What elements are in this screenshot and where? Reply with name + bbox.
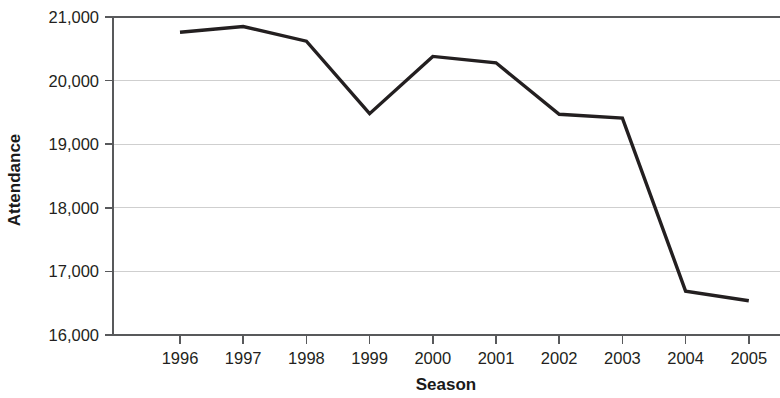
x-tick-label: 1997 [225,349,262,367]
y-tick-label: 20,000 [49,72,99,90]
x-tick-label: 2001 [478,349,515,367]
x-tick-label: 1996 [162,349,199,367]
chart-canvas: 16,00017,00018,00019,00020,00021,000 199… [0,0,780,398]
attendance-line-chart: 16,00017,00018,00019,00020,00021,000 199… [0,0,780,398]
y-axis-ticks: 16,00017,00018,00019,00020,00021,000 [49,8,113,344]
y-tick-label: 19,000 [49,135,99,153]
x-tick-label: 2002 [541,349,578,367]
gridlines [113,81,780,272]
x-tick-label: 2004 [667,349,704,367]
x-tick-label: 1999 [351,349,388,367]
y-tick-label: 18,000 [49,199,99,217]
x-tick-label: 1998 [288,349,325,367]
y-tick-label: 17,000 [49,262,99,280]
x-axis-title: Season [416,375,476,394]
x-tick-label: 2000 [414,349,451,367]
x-tick-label: 2003 [604,349,641,367]
y-axis-title: Attendance [5,134,24,227]
y-tick-label: 21,000 [49,8,99,26]
y-tick-label: 16,000 [49,326,99,344]
x-tick-label: 2005 [730,349,767,367]
x-axis-ticks: 1996199719981999200020012002200320042005 [162,335,768,367]
attendance-data-line [180,27,749,301]
